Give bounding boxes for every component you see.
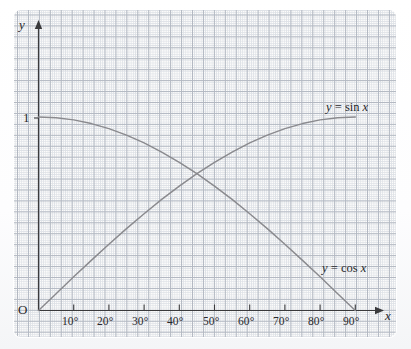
y-axis-arrow-icon — [35, 20, 42, 29]
curve-label-cos-lhs: y — [322, 261, 328, 275]
x-tick-label: 20° — [97, 316, 113, 328]
curve-cos — [39, 117, 356, 311]
x-tick-label: 70° — [273, 316, 289, 328]
curve-label-cos-fn: cos — [341, 261, 358, 275]
x-axis-ticks — [74, 305, 356, 311]
curve-label-sin-arg: x — [363, 100, 369, 114]
curve-label-sin-lhs: y — [326, 100, 332, 114]
x-tick-label: 50° — [203, 316, 219, 328]
curve-label-cos: y = cos x — [322, 262, 366, 275]
x-tick-label: 10° — [62, 316, 78, 328]
y-axis-label: y — [19, 18, 25, 31]
plot-area — [0, 0, 411, 349]
x-tick-label: 30° — [132, 316, 148, 328]
curve-label-sin-fn: sin — [345, 100, 360, 114]
x-tick-label: 90° — [343, 316, 359, 328]
figure-sine-cosine-graph: y x O 1 10° 20° 30° 40° 50° 60° 70° 80° … — [0, 0, 411, 349]
y-unit-label: 1 — [23, 111, 30, 124]
curve-label-cos-arg: x — [361, 261, 367, 275]
curve-label-sin-eq: = — [335, 100, 342, 114]
curve-label-sin: y = sin x — [326, 101, 368, 114]
x-tick-label: 40° — [167, 316, 183, 328]
x-tick-label: 60° — [238, 316, 254, 328]
x-axis-arrow-icon — [375, 307, 384, 314]
curve-sin — [39, 117, 356, 311]
x-axis-label: x — [385, 309, 391, 322]
curve-label-cos-eq: = — [331, 261, 338, 275]
x-tick-label: 80° — [308, 316, 324, 328]
origin-label: O — [18, 303, 27, 316]
